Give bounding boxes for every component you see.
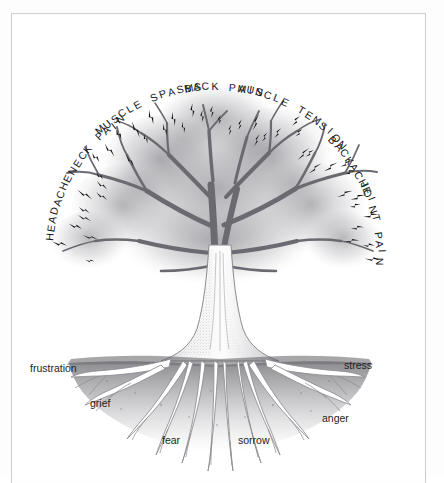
label-fear: fear [162,434,180,446]
label-frustration: frustration [30,362,77,374]
label-grief: grief [90,397,110,409]
tree-artwork [11,13,426,475]
label-anger: anger [322,412,349,424]
label-stress: stress [344,359,372,371]
label-sorrow: sorrow [238,434,270,446]
